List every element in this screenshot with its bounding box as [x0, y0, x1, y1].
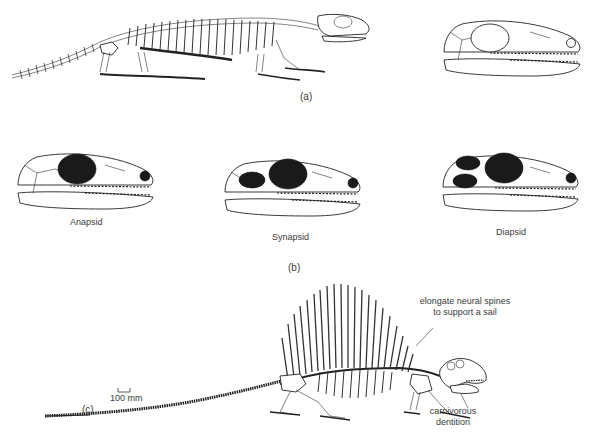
synapsid-label: Synapsid	[272, 232, 309, 242]
diapsid-label: Diapsid	[496, 227, 526, 237]
annotation-carnivorous-dentition: carnivorous dentition	[428, 406, 478, 428]
anapsid-skull-large	[440, 10, 590, 80]
early-reptile-skeleton	[0, 0, 380, 100]
panel-b-label: (b)	[288, 262, 300, 273]
scale-bar-label: 100 mm	[110, 393, 143, 403]
annotation-neural-spines: elongate neural spines to support a sail	[400, 296, 530, 318]
annotation-carnivorous-line1: carnivorous	[428, 406, 478, 417]
synapsid-skull	[222, 150, 367, 220]
annotation-carnivorous-line2: dentition	[428, 417, 478, 428]
annotation-neural-spines-line1: elongate neural spines	[400, 296, 530, 307]
annotation-neural-spines-line2: to support a sail	[400, 307, 530, 318]
panel-a-label: (a)	[300, 91, 312, 102]
anapsid-skull	[15, 143, 160, 213]
panel-c-label: (c)	[82, 404, 94, 415]
diapsid-skull	[440, 145, 585, 215]
anapsid-label: Anapsid	[70, 217, 103, 227]
